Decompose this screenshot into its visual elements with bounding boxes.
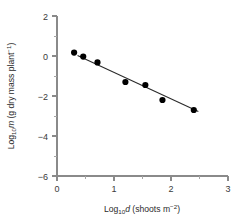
data-point xyxy=(159,97,165,103)
y-axis-title-lead: Log xyxy=(6,135,16,150)
data-point xyxy=(71,50,77,56)
scatter-plot-svg: 2 0 −2 −4 −6 0 1 2 3 Log10d (shoots m− xyxy=(0,0,251,223)
y-axis-major-ticks xyxy=(52,16,57,176)
y-tick-label: −2 xyxy=(38,92,48,102)
x-axis-title-tail-close: ) xyxy=(177,204,180,214)
y-tick-label: 2 xyxy=(43,12,48,22)
y-axis-title-tail-close: ) xyxy=(6,43,16,46)
axes-group xyxy=(57,16,228,176)
data-point xyxy=(191,107,197,113)
x-tick-label: 0 xyxy=(54,184,59,194)
chart-figure: 2 0 −2 −4 −6 0 1 2 3 Log10d (shoots m− xyxy=(0,0,251,223)
x-axis-tick-labels: 0 1 2 3 xyxy=(54,184,230,194)
y-axis-title: Log10m (g dry mass plant−1) xyxy=(5,43,17,150)
x-axis-title-tail-open: (shoots m xyxy=(130,204,170,214)
y-tick-label: −6 xyxy=(38,172,48,182)
y-axis-title-variable: m xyxy=(6,121,16,128)
x-axis-title: Log10d (shoots m−2) xyxy=(104,203,180,215)
y-tick-label: 0 xyxy=(43,52,48,62)
y-axis-title-tail-open: (g dry mass plant xyxy=(6,52,16,121)
data-point xyxy=(94,59,100,65)
data-point xyxy=(80,54,86,60)
x-axis-title-lead: Log xyxy=(104,204,119,214)
x-tick-label: 1 xyxy=(111,184,116,194)
y-tick-label: −4 xyxy=(38,132,48,142)
x-tick-label: 3 xyxy=(225,184,230,194)
x-tick-label: 2 xyxy=(168,184,173,194)
y-axis-tick-labels: 2 0 −2 −4 −6 xyxy=(38,12,48,182)
data-point xyxy=(142,82,148,88)
data-point xyxy=(122,79,128,85)
